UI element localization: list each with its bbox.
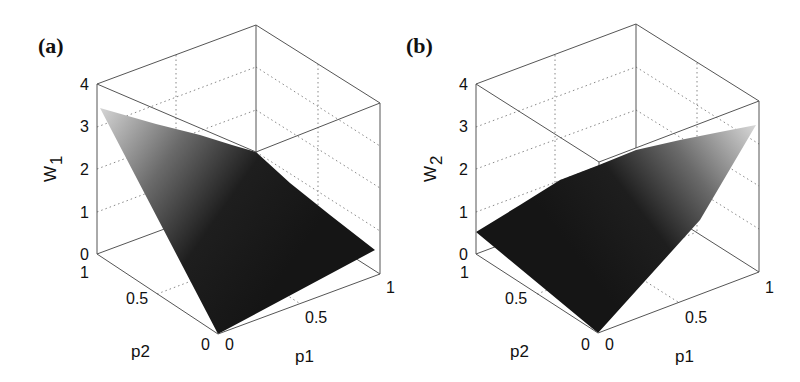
panel-a-z-label: W 1 [41, 156, 66, 182]
panel-a-p2-label: p2 [131, 342, 150, 361]
svg-text:4: 4 [80, 76, 89, 93]
svg-text:1: 1 [460, 264, 469, 281]
svg-text:W: W [41, 166, 60, 182]
svg-text:0: 0 [201, 336, 210, 353]
panel-b-p1-label: p1 [675, 347, 694, 366]
svg-text:1: 1 [459, 204, 468, 221]
svg-text:0.5: 0.5 [685, 309, 707, 326]
svg-text:1: 1 [386, 279, 395, 296]
panel-b-z-ticks: 4 3 2 1 0 [459, 76, 468, 263]
svg-text:3: 3 [459, 118, 468, 135]
svg-text:0: 0 [459, 246, 468, 263]
svg-text:2: 2 [427, 156, 446, 165]
svg-text:0.5: 0.5 [305, 309, 327, 326]
svg-text:0: 0 [225, 336, 234, 353]
panel-a-p1-label: p1 [295, 347, 314, 366]
svg-text:1: 1 [80, 264, 89, 281]
svg-text:1: 1 [765, 279, 774, 296]
svg-text:0: 0 [605, 336, 614, 353]
svg-text:1: 1 [80, 204, 89, 221]
svg-text:W: W [421, 166, 440, 182]
svg-text:3: 3 [80, 118, 89, 135]
panel-b-label: (b) [406, 33, 433, 58]
svg-text:0: 0 [581, 336, 590, 353]
svg-text:0: 0 [80, 246, 89, 263]
svg-text:1: 1 [47, 156, 66, 165]
svg-text:0.5: 0.5 [126, 290, 148, 307]
panel-a-label: (a) [38, 33, 64, 58]
panel-b-p2-label: p2 [510, 342, 529, 361]
svg-text:0.5: 0.5 [505, 290, 527, 307]
panel-a: (a) [38, 25, 395, 366]
panel-b-z-label: W 2 [421, 156, 446, 182]
panel-b: (b) [406, 24, 774, 366]
svg-text:2: 2 [80, 161, 89, 178]
figure: (a) [0, 0, 800, 382]
svg-text:4: 4 [459, 76, 468, 93]
svg-text:2: 2 [459, 161, 468, 178]
panel-a-z-ticks: 4 3 2 1 0 [80, 76, 89, 263]
